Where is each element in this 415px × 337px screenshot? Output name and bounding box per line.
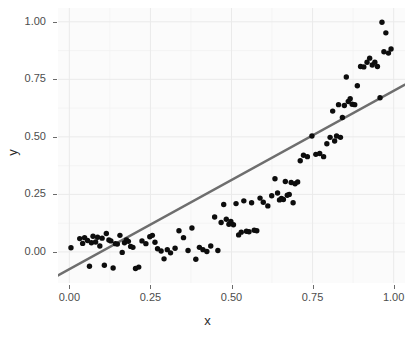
- data-point: [375, 64, 380, 69]
- y-tick-mark: [53, 79, 57, 80]
- data-point: [102, 263, 107, 268]
- data-point: [309, 133, 314, 138]
- data-point: [332, 138, 337, 143]
- data-point: [377, 95, 382, 100]
- data-point: [172, 246, 177, 251]
- x-tick-label: 0.75: [283, 292, 343, 303]
- data-point: [208, 243, 213, 248]
- data-point: [117, 233, 122, 238]
- data-point: [93, 239, 98, 244]
- x-tick-mark: [69, 285, 70, 289]
- x-tick-mark: [150, 285, 151, 289]
- data-point: [158, 248, 163, 253]
- x-tick-mark: [394, 285, 395, 289]
- y-tick-label: 0.75: [0, 73, 46, 84]
- data-point: [342, 103, 347, 108]
- x-axis-title: x: [0, 313, 415, 328]
- y-tick-mark: [53, 22, 57, 23]
- scatter-plot-figure: y x 0.000.250.500.751.00 0.000.250.500.7…: [0, 0, 415, 337]
- data-point: [254, 228, 259, 233]
- data-point: [352, 102, 357, 107]
- data-point: [97, 243, 102, 248]
- data-point: [361, 64, 366, 69]
- data-point: [269, 193, 274, 198]
- data-point: [249, 200, 254, 205]
- data-point: [295, 179, 300, 184]
- data-point: [367, 55, 372, 60]
- data-point: [152, 240, 157, 245]
- data-point: [355, 83, 360, 88]
- x-tick-label: 0.00: [39, 292, 99, 303]
- data-point: [176, 228, 181, 233]
- data-point: [212, 214, 217, 219]
- data-point: [340, 115, 345, 120]
- x-tick-label: 1.00: [364, 292, 415, 303]
- data-point: [99, 235, 104, 240]
- data-point: [383, 30, 388, 35]
- data-point: [126, 239, 131, 244]
- data-point: [130, 245, 135, 250]
- data-point: [344, 74, 349, 79]
- data-point: [104, 231, 109, 236]
- data-point: [204, 249, 209, 254]
- plot-panel: [58, 8, 405, 283]
- data-point: [215, 248, 220, 253]
- data-point: [283, 179, 288, 184]
- data-point: [275, 190, 280, 195]
- data-point: [80, 241, 85, 246]
- data-point: [221, 202, 226, 207]
- data-point: [336, 102, 341, 107]
- data-point: [330, 108, 335, 113]
- x-tick-mark: [313, 285, 314, 289]
- data-point: [231, 222, 236, 227]
- plot-canvas: [58, 8, 405, 283]
- data-point: [150, 233, 155, 238]
- data-point: [287, 192, 292, 197]
- data-point: [281, 197, 286, 202]
- data-point: [324, 141, 329, 146]
- y-tick-mark: [53, 137, 57, 138]
- data-point: [161, 256, 166, 261]
- data-point: [193, 257, 198, 262]
- x-tick-mark: [232, 285, 233, 289]
- data-point: [110, 265, 115, 270]
- data-point: [347, 96, 352, 101]
- y-tick-label: 0.25: [0, 188, 46, 199]
- data-point: [168, 250, 173, 255]
- data-point: [68, 245, 73, 250]
- data-point: [338, 135, 343, 140]
- data-point: [241, 198, 246, 203]
- y-axis-title: y: [5, 143, 20, 163]
- data-point: [87, 264, 92, 269]
- data-point: [143, 241, 148, 246]
- y-tick-label: 0.50: [0, 131, 46, 142]
- data-point: [305, 154, 310, 159]
- data-point: [321, 154, 326, 159]
- x-tick-label: 0.50: [202, 292, 262, 303]
- data-point: [379, 20, 384, 25]
- data-point: [261, 200, 266, 205]
- data-point: [298, 158, 303, 163]
- y-tick-mark: [53, 194, 57, 195]
- data-point: [272, 176, 277, 181]
- y-tick-mark: [53, 252, 57, 253]
- data-point: [388, 46, 393, 51]
- data-point: [327, 135, 332, 140]
- data-point: [246, 229, 251, 234]
- data-point: [115, 241, 120, 246]
- data-point: [189, 225, 194, 230]
- y-tick-label: 1.00: [0, 16, 46, 27]
- data-point: [108, 238, 113, 243]
- data-point: [136, 264, 141, 269]
- data-point: [265, 203, 270, 208]
- data-point: [233, 201, 238, 206]
- data-point: [120, 250, 125, 255]
- data-point: [90, 234, 95, 239]
- x-tick-label: 0.25: [120, 292, 180, 303]
- data-point: [77, 236, 82, 241]
- data-point: [95, 235, 100, 240]
- data-point: [239, 229, 244, 234]
- data-point: [181, 235, 186, 240]
- y-tick-label: 0.00: [0, 246, 46, 257]
- data-point: [218, 220, 223, 225]
